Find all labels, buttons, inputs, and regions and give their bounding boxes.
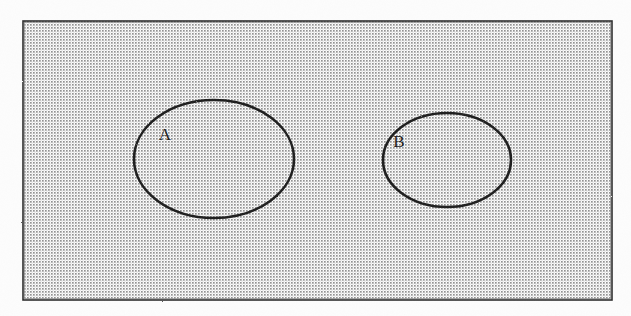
paper-grain-overlay: [0, 0, 631, 316]
venn-diagram-canvas: A B: [0, 0, 631, 316]
venn-diagram-figure: A B: [0, 0, 631, 316]
